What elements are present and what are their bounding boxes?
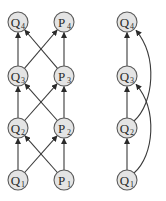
node-label: Q: [120, 121, 130, 136]
node-subscript: 4: [130, 22, 134, 31]
node-q3-left: Q3: [8, 66, 28, 86]
node-label: Q: [120, 69, 130, 84]
node-label: P: [58, 69, 65, 84]
node-label: P: [58, 121, 65, 136]
node-label: Q: [11, 69, 21, 84]
node-subscript: 3: [21, 76, 25, 85]
node-label: P: [58, 173, 65, 188]
right-graph-edges: [127, 30, 151, 173]
node-label: Q: [11, 121, 21, 136]
node-label: Q: [120, 15, 130, 30]
left-graph-edges: [18, 30, 64, 173]
node-label: Q: [11, 15, 21, 30]
node-q2-left: Q2: [8, 118, 28, 138]
node-p4-left: P4: [54, 12, 74, 32]
node-subscript: 4: [21, 22, 25, 31]
node-q2-right: Q2: [117, 118, 137, 138]
node-subscript: 3: [67, 76, 71, 85]
node-subscript: 2: [67, 128, 71, 137]
node-subscript: 2: [130, 128, 134, 137]
node-q4-right: Q4: [117, 12, 137, 32]
node-q4-left: Q4: [8, 12, 28, 32]
node-q3-right: Q3: [117, 66, 137, 86]
node-subscript: 1: [67, 180, 71, 189]
node-p1-left: P1: [54, 170, 74, 190]
node-label: P: [58, 15, 65, 30]
node-subscript: 1: [130, 180, 134, 189]
node-subscript: 3: [130, 76, 134, 85]
node-q1-left: Q1: [8, 170, 28, 190]
node-label: Q: [120, 173, 130, 188]
node-subscript: 1: [21, 180, 25, 189]
node-subscript: 2: [21, 128, 25, 137]
node-p2-left: P2: [54, 118, 74, 138]
node-label: Q: [11, 173, 21, 188]
node-q1-right: Q1: [117, 170, 137, 190]
dependency-diagram: Q1P1Q2P2Q3P3Q4P4 Q1Q2Q3Q4: [0, 0, 166, 201]
node-subscript: 4: [67, 22, 71, 31]
node-p3-left: P3: [54, 66, 74, 86]
